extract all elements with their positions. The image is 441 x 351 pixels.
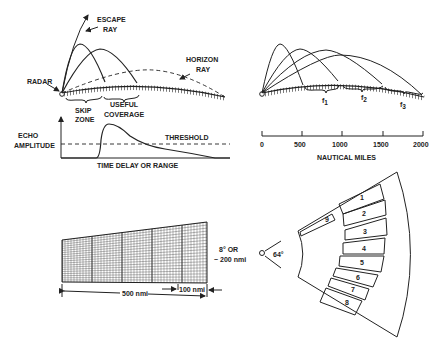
ray-1 xyxy=(262,44,303,93)
distance-scale: 0 500 1000 1500 2000 NAUTICAL MILES xyxy=(260,131,429,161)
beam-5-label: 5 xyxy=(360,259,364,266)
echo-curve xyxy=(61,124,230,158)
tick-1500: 1500 xyxy=(373,141,389,148)
tick-0: 0 xyxy=(260,141,264,148)
tick-2000: 2000 xyxy=(413,141,429,148)
x-axis-label: TIME DELAY OR RANGE xyxy=(97,162,179,169)
y-axis-label-2: AMPLITUDE xyxy=(14,142,55,149)
f2-label: f2 xyxy=(361,94,367,103)
skip-zone-label: SKIP xyxy=(75,107,92,114)
resolution-grid: 500 nmi 100 nmi 8° OR ~ 200 nmi xyxy=(62,215,246,297)
horizon-ray-label: HORIZON xyxy=(186,56,218,63)
azimuth-label-2: ~ 200 nmi xyxy=(214,256,246,263)
beam-3-label: 3 xyxy=(363,228,367,235)
beam-7-label: 7 xyxy=(351,286,355,293)
escape-ray-label-2: RAY xyxy=(103,26,117,33)
f3-label: f3 xyxy=(400,101,406,110)
y-axis-label: ECHO xyxy=(18,132,39,139)
cell-dimension-label: 100 nmi xyxy=(179,286,205,293)
beam-1-label: 1 xyxy=(360,194,364,201)
beam-sector-diagram: 64° 9 1 2 3 4 5 6 7 8 xyxy=(260,172,411,337)
diagram-canvas: ESCAPE RAY HORIZON RAY RADAR SKIP ZONE U… xyxy=(0,0,441,351)
horizon-ray-label-2: RAY xyxy=(196,66,210,73)
tick-1000: 1000 xyxy=(332,141,348,148)
ray-steep xyxy=(62,44,105,93)
skip-zone-brace xyxy=(66,96,102,103)
radar-site-icon-d xyxy=(260,251,265,256)
echo-amplitude-plot: ECHO AMPLITUDE THRESHOLD TIME DELAY OR R… xyxy=(14,117,230,169)
radar-label: RADAR xyxy=(27,78,52,85)
f1-label: f1 xyxy=(322,97,328,106)
propagation-diagram: ESCAPE RAY HORIZON RAY RADAR SKIP ZONE U… xyxy=(27,15,225,123)
threshold-label: THRESHOLD xyxy=(165,134,209,141)
beam-4-label: 4 xyxy=(362,245,366,252)
beam-8-label: 8 xyxy=(345,299,349,306)
earth-hatching xyxy=(64,87,225,98)
frequency-coverage-diagram: f1 f2 f3 xyxy=(260,44,424,110)
skip-zone-label-2: ZONE xyxy=(75,116,95,123)
beam-6-label: 6 xyxy=(356,274,360,281)
sector-angle-label: 64° xyxy=(273,251,284,258)
escape-ray-label: ESCAPE xyxy=(97,16,126,23)
range-dimension-label: 500 nmi xyxy=(122,290,148,297)
beam-2-label: 2 xyxy=(362,210,366,217)
beam-9-label: 9 xyxy=(325,216,329,223)
scale-label: NAUTICAL MILES xyxy=(317,154,376,161)
azimuth-label: 8° OR xyxy=(219,246,238,253)
useful-coverage-label: USEFUL xyxy=(110,101,139,108)
useful-coverage-label-2: COVERAGE xyxy=(104,111,144,118)
escape-ray xyxy=(62,15,88,93)
tick-500: 500 xyxy=(294,141,306,148)
